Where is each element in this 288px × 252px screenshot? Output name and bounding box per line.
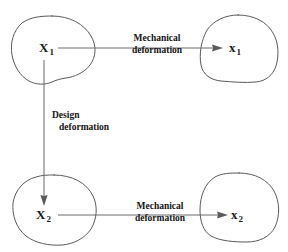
node-label-x2-main: x [231, 207, 238, 222]
node-label-x2: x2 [231, 208, 242, 221]
node-label-X1-sub: 1 [49, 47, 54, 57]
edge-label-bottom-mechanical-line2: deformation [120, 213, 200, 225]
node-label-x1-main: x [229, 40, 236, 55]
node-label-X2-sub: 2 [46, 214, 51, 224]
node-label-x2-sub: 2 [239, 214, 244, 224]
edge-label-bottom-mechanical: Mechanical deformation [120, 201, 200, 224]
blob-X2 [13, 175, 96, 245]
node-label-X2-main: X [36, 207, 45, 222]
arrow-head-design [40, 195, 47, 206]
edge-label-design-line2: deformation [52, 122, 132, 134]
deformation-diagram: X1 x1 X2 x2 Mechanical deformation Desig… [0, 0, 288, 252]
edge-label-top-mechanical: Mechanical deformation [117, 33, 197, 56]
arrow-head-bottom-mechanical [217, 211, 228, 218]
edge-label-design: Design deformation [52, 110, 132, 133]
node-label-X1: X1 [39, 41, 53, 54]
node-label-x1: x1 [229, 41, 240, 54]
node-label-X2: X2 [36, 208, 50, 221]
arrow-head-top-mechanical [212, 44, 223, 51]
edge-label-bottom-mechanical-line1: Mechanical [137, 201, 184, 211]
edge-label-top-mechanical-line2: deformation [117, 45, 197, 57]
node-label-X1-main: X [39, 40, 48, 55]
edge-label-design-line1: Design [52, 110, 132, 122]
node-label-x1-sub: 1 [237, 47, 242, 57]
edge-label-top-mechanical-line1: Mechanical [134, 33, 181, 43]
